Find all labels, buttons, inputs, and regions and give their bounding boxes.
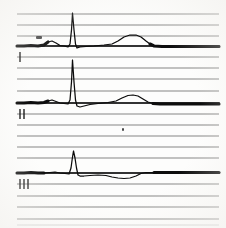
speck-mid-page [122, 128, 124, 131]
baseline-head-III [17, 173, 44, 174]
baseline-head-I [17, 42, 48, 46]
lead-markers [20, 52, 28, 189]
ecg-strip-page [0, 0, 226, 228]
ecg-canvas [0, 0, 226, 228]
baseline-tail-I [150, 44, 219, 47]
pen-smudge-lead-I [36, 36, 42, 39]
baseline-tail-II [153, 104, 219, 105]
ecg-traces [17, 13, 219, 179]
waveform-lead-III [17, 151, 219, 179]
scan-artifacts [36, 36, 124, 131]
baseline-head-II [17, 101, 48, 103]
